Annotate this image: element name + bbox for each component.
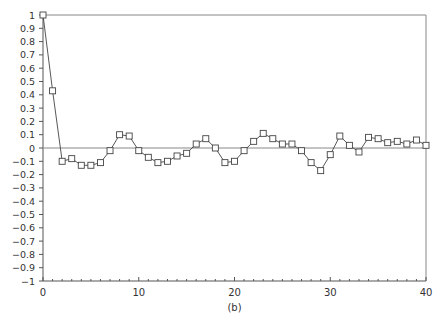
y-tick-label: −0.7 (12, 236, 35, 247)
data-point-marker (126, 133, 132, 139)
data-point-marker (40, 12, 46, 18)
y-tick-label: −1 (21, 276, 35, 287)
y-tick-label: 0 (29, 143, 35, 154)
y-tick-label: 0.2 (20, 116, 35, 127)
y-tick-label: 0.1 (20, 129, 35, 140)
data-point-marker (155, 160, 161, 166)
autocorrelation-chart: 10.90.80.70.60.50.40.30.20.10−0.1−0.2−0.… (0, 0, 439, 319)
x-tick-label: 10 (132, 287, 145, 298)
x-tick-label: 20 (228, 287, 241, 298)
data-point-marker (404, 141, 410, 147)
y-tick-label: −0.6 (12, 222, 35, 233)
data-point-marker (279, 141, 285, 147)
data-point-marker (78, 162, 84, 168)
y-tick-label: −0.4 (12, 196, 35, 207)
data-point-marker (97, 160, 103, 166)
y-tick-label: −0.5 (12, 209, 35, 220)
y-tick-label: 0.6 (20, 63, 35, 74)
data-point-marker (289, 141, 295, 147)
x-tick-label: 40 (420, 287, 433, 298)
series-line (43, 15, 426, 171)
y-tick-label: −0.8 (12, 249, 35, 260)
x-tick-label: 0 (40, 287, 46, 298)
data-point-marker (356, 149, 362, 155)
data-point-marker (174, 153, 180, 159)
data-point-marker (308, 160, 314, 166)
data-point-marker (251, 138, 257, 144)
data-point-marker (413, 137, 419, 143)
data-point-marker (270, 136, 276, 142)
y-tick-label: 0.3 (20, 103, 35, 114)
data-point-marker (260, 130, 266, 136)
data-point-marker (145, 154, 151, 160)
data-point-marker (366, 134, 372, 140)
y-tick-label: 0.8 (20, 36, 35, 47)
y-tick-label: −0.1 (12, 156, 35, 167)
data-point-marker (423, 142, 429, 148)
data-point-marker (385, 140, 391, 146)
data-point-marker (327, 152, 333, 158)
y-tick-label: 0.9 (20, 23, 35, 34)
data-point-marker (337, 133, 343, 139)
data-point-marker (299, 148, 305, 154)
data-point-marker (184, 150, 190, 156)
data-point-marker (241, 148, 247, 154)
data-point-marker (136, 148, 142, 154)
data-point-marker (88, 162, 94, 168)
y-tick-label: 0.4 (20, 89, 35, 100)
data-point-marker (346, 142, 352, 148)
data-point-marker (232, 158, 238, 164)
y-tick-label: 0.5 (20, 76, 35, 87)
data-point-marker (318, 168, 324, 174)
data-point-marker (375, 136, 381, 142)
data-point-marker (50, 88, 56, 94)
data-point-marker (59, 158, 65, 164)
y-tick-label: −0.3 (12, 182, 35, 193)
data-point-marker (117, 132, 123, 138)
data-point-marker (212, 145, 218, 151)
chart-canvas: 10.90.80.70.60.50.40.30.20.10−0.1−0.2−0.… (0, 0, 439, 319)
y-tick-label: −0.2 (12, 169, 35, 180)
caption-label: (b) (227, 302, 241, 313)
x-tick-label: 30 (324, 287, 337, 298)
data-point-marker (222, 160, 228, 166)
data-point-marker (164, 158, 170, 164)
data-point-marker (203, 136, 209, 142)
y-tick-label: 1 (29, 10, 35, 21)
y-tick-label: −0.9 (12, 262, 35, 273)
y-tick-label: 0.7 (20, 49, 35, 60)
data-point-marker (107, 148, 113, 154)
data-point-marker (394, 138, 400, 144)
data-point-marker (69, 156, 75, 162)
data-point-marker (193, 141, 199, 147)
